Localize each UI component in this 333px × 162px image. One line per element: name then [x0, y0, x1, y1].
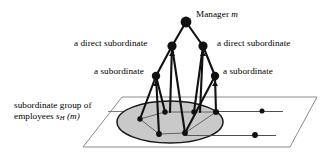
outside-node-1	[260, 109, 265, 114]
subordinate-left-node	[152, 72, 160, 80]
edge-arrowheads	[153, 51, 218, 86]
subordinate-group-prefix: employees	[14, 111, 56, 121]
subordinate-left-label: a subordinate	[94, 66, 144, 77]
employee-node-6	[213, 109, 219, 115]
employee-node-5	[191, 109, 196, 114]
manager-label-text: Manager	[196, 9, 231, 19]
outside-node-2	[252, 132, 258, 138]
hierarchy-diagram: Manager m a direct subordinate a direct …	[0, 0, 333, 162]
manager-label: Manager m	[196, 9, 238, 20]
direct-subordinate-right-label: a direct subordinate	[217, 38, 290, 49]
employee-node-1	[137, 116, 142, 121]
direct-subordinate-left-label: a direct subordinate	[74, 38, 147, 49]
subordinate-group-label: subordinate group of employees sH (m)	[14, 100, 92, 123]
subordinate-right-label: a subordinate	[223, 66, 273, 77]
subordinate-group-line2: employees sH (m)	[14, 111, 92, 123]
employee-node-3	[156, 131, 162, 137]
diagram-canvas	[0, 0, 333, 162]
direct-subordinate-right-node	[198, 41, 207, 50]
subordinate-group-argument: (m)	[65, 111, 80, 121]
subordinate-right-node	[211, 72, 219, 80]
manager-symbol: m	[231, 9, 238, 19]
employee-node-2	[162, 109, 167, 114]
subordinate-group-line1: subordinate group of	[14, 100, 92, 110]
manager-node	[181, 17, 192, 28]
direct-subordinate-left-node	[167, 41, 176, 50]
employee-node-4	[182, 130, 188, 136]
